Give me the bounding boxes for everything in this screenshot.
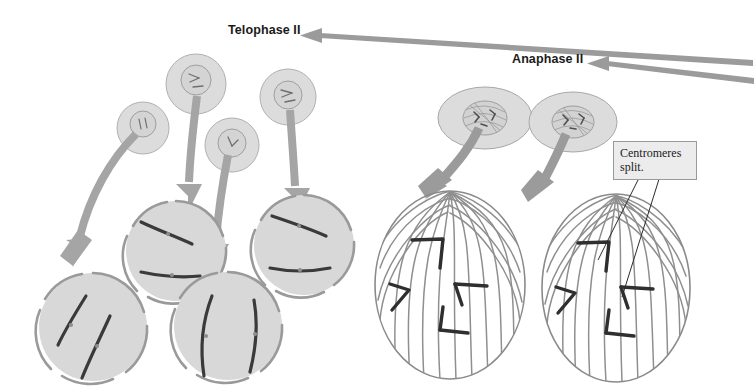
anaphase-overview-cell-2 — [529, 92, 617, 152]
diagram-canvas: Telophase II Anaphase II Centromeres spl… — [0, 0, 754, 388]
anaphase-overview-cell-1 — [438, 87, 532, 149]
anaphase-label: Anaphase II — [512, 52, 583, 66]
telophase-cell-lower-right — [171, 272, 282, 383]
meiosis-diagram — [0, 0, 754, 388]
overview-to-anaphase-arrow-1 — [418, 128, 479, 200]
telophase-label: Telophase II — [228, 23, 301, 37]
centromeres-split-callout: Centromeres split. — [613, 141, 697, 180]
telophase-cell-upper-right — [251, 195, 354, 298]
anaphase-cell-right — [542, 176, 690, 382]
telophase-small-cell-3 — [205, 118, 259, 172]
telophase-cell-lower-left — [36, 273, 147, 384]
anaphase-cell-left — [375, 191, 525, 380]
